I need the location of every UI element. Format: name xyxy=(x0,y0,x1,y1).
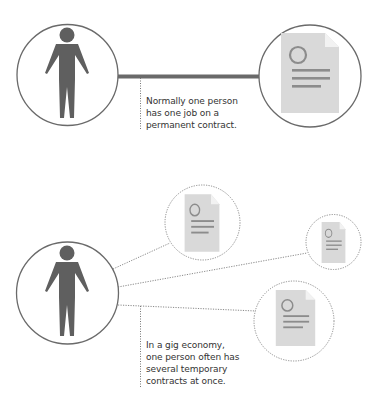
caption-line: permanent contract. xyxy=(146,119,238,131)
gig-connector-3 xyxy=(118,305,256,311)
caption-line: several temporary xyxy=(146,363,239,375)
document-icon xyxy=(185,194,220,252)
gig-connector-1 xyxy=(113,243,170,269)
permanent-caption: Normally one person has one job on a per… xyxy=(146,95,238,131)
gig-caption: In a gig economy, one person often has s… xyxy=(146,339,239,387)
document-icon xyxy=(281,33,339,113)
caption-line: Normally one person xyxy=(146,95,238,107)
document-icon xyxy=(276,290,315,346)
permanent-connector-bar xyxy=(117,75,261,79)
caption-line: has one job on a xyxy=(146,107,238,119)
caption-line: contracts at once. xyxy=(146,375,239,387)
caption-line: In a gig economy, xyxy=(146,339,239,351)
caption-line: one person often has xyxy=(146,351,239,363)
document-icon xyxy=(322,222,346,263)
